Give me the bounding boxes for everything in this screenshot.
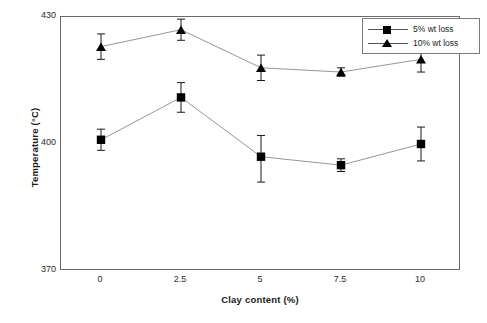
data-point-marker <box>97 136 105 144</box>
series-1 <box>97 83 425 182</box>
x-tick-label: 7.5 <box>318 275 362 284</box>
y-tick-label: 400 <box>26 138 56 147</box>
legend-item-label: 5% wt loss <box>410 24 454 34</box>
y-axis-tick-labels: 370400430 <box>24 0 56 323</box>
data-point-marker <box>337 161 345 169</box>
triangle-marker-icon <box>366 36 410 50</box>
legend-item-label: 10% wt loss <box>410 38 458 48</box>
x-tick-label: 2.5 <box>158 275 202 284</box>
data-point-marker <box>176 25 186 34</box>
x-axis-title: Clay content (%) <box>60 294 460 305</box>
plot-area <box>60 16 460 270</box>
y-tick-label: 430 <box>26 11 56 20</box>
legend-marker <box>383 26 391 34</box>
y-tick-label: 370 <box>26 265 56 274</box>
square-marker-icon <box>366 22 410 36</box>
x-tick-label: 10 <box>398 275 442 284</box>
chart-legend: 5% wt loss10% wt loss <box>362 18 480 54</box>
data-point-marker <box>417 140 425 148</box>
data-point-marker <box>177 93 185 101</box>
legend-item[interactable]: 10% wt loss <box>366 36 475 50</box>
legend-marker <box>382 39 392 47</box>
x-tick-label: 0 <box>78 275 122 284</box>
chart-figure: Temperature (°C) 370400430 02.557.510 Cl… <box>0 0 487 323</box>
data-point-marker <box>257 153 265 161</box>
legend-item[interactable]: 5% wt loss <box>366 22 475 36</box>
x-axis-tick-labels: 02.557.510 <box>60 275 460 291</box>
x-tick-label: 5 <box>238 275 282 284</box>
data-point-marker <box>96 42 106 51</box>
data-point-marker <box>416 55 426 64</box>
plot-svg <box>61 17 461 271</box>
